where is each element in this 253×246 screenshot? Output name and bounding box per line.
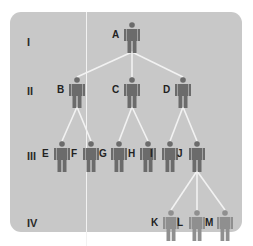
person-label-G: G bbox=[99, 148, 107, 159]
person-icon-C bbox=[124, 77, 140, 108]
person-icon-E bbox=[54, 141, 70, 172]
person-icon-H bbox=[140, 141, 156, 172]
edge-J-K bbox=[171, 171, 197, 210]
generation-label-III: III bbox=[27, 150, 36, 162]
person-label-I: I bbox=[150, 148, 153, 159]
person-label-M: M bbox=[205, 217, 213, 228]
person-label-J: J bbox=[177, 148, 183, 159]
edge-C-H bbox=[132, 107, 148, 141]
edge-B-F bbox=[77, 107, 91, 141]
edge-B-E bbox=[62, 107, 77, 141]
edge-D-J bbox=[183, 107, 197, 141]
person-icon-J bbox=[189, 141, 205, 172]
person-label-E: E bbox=[42, 148, 49, 159]
person-label-H: H bbox=[128, 148, 135, 159]
edge-D-I bbox=[170, 107, 183, 141]
person-icon-D bbox=[175, 77, 191, 108]
generation-label-II: II bbox=[27, 85, 33, 97]
edge-A-D bbox=[132, 52, 183, 77]
person-icon-G bbox=[111, 141, 127, 172]
person-label-K: K bbox=[151, 217, 158, 228]
person-icon-B bbox=[69, 77, 85, 108]
generation-label-IV: IV bbox=[27, 217, 37, 229]
person-label-F: F bbox=[71, 148, 77, 159]
edge-A-B bbox=[77, 52, 132, 77]
person-label-B: B bbox=[57, 84, 64, 95]
pedigree-tree bbox=[0, 0, 253, 246]
person-icon-L bbox=[189, 210, 205, 241]
pedigree-edges bbox=[62, 52, 225, 210]
person-icon-F bbox=[83, 141, 99, 172]
person-icon-I bbox=[162, 141, 178, 172]
person-label-D: D bbox=[163, 84, 170, 95]
person-label-L: L bbox=[177, 217, 183, 228]
generation-label-I: I bbox=[27, 36, 30, 48]
person-icon-A bbox=[124, 22, 140, 53]
person-icon-M bbox=[217, 210, 233, 241]
person-label-A: A bbox=[112, 29, 119, 40]
edge-J-M bbox=[197, 171, 225, 210]
edge-C-G bbox=[119, 107, 132, 141]
person-label-C: C bbox=[112, 84, 119, 95]
